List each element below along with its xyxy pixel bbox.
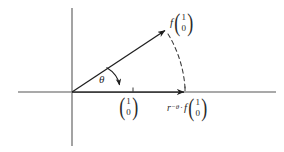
rotation-dashed-arc — [168, 34, 185, 88]
vector-component-top: 1 — [181, 12, 186, 23]
vector-component-bottom: 0 — [126, 107, 131, 118]
vector-component-bottom: 0 — [195, 108, 200, 119]
vector-component-bottom: 0 — [181, 23, 186, 34]
diagram-canvas — [0, 0, 284, 152]
column-vector-rotated: ( 1 0 ) — [187, 97, 208, 119]
right-paren: ) — [201, 98, 207, 119]
right-paren: ) — [132, 97, 138, 118]
rotation-diagram: θ f ( 1 0 ) ( 1 0 ) r−θ — [0, 0, 284, 152]
column-vector-unit: ( 1 0 ) — [118, 96, 139, 118]
label-f-of-unit-vector: f ( 1 0 ) — [170, 12, 194, 34]
left-paren: ( — [174, 13, 180, 34]
column-vector-image: ( 1 0 ) — [173, 12, 194, 34]
vector-component-top: 1 — [126, 96, 131, 107]
left-paren: ( — [119, 97, 125, 118]
angle-arc — [107, 68, 120, 86]
vector-component-top: 1 — [195, 97, 200, 108]
angle-theta-label: θ — [99, 74, 104, 85]
right-paren: ) — [187, 13, 193, 34]
left-paren: ( — [188, 98, 194, 119]
vector-components: 1 0 — [181, 12, 186, 34]
vector-components: 1 0 — [126, 96, 131, 118]
vector-components: 1 0 — [195, 97, 200, 119]
r-subscript: −θ — [171, 104, 179, 111]
label-rotated-vector: r−θ · f ( 1 0 ) — [167, 97, 208, 119]
label-unit-vector: ( 1 0 ) — [118, 96, 139, 118]
